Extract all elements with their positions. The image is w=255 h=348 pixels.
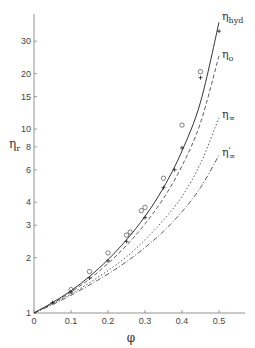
y-tick-label: 8	[26, 142, 31, 152]
circle-marker	[87, 269, 91, 273]
curves	[34, 22, 219, 313]
curve-label: η∞	[222, 108, 235, 123]
y-tick-label: 2	[26, 253, 31, 263]
curve-dotted	[34, 118, 219, 313]
circle-marker	[139, 208, 143, 212]
circle-marker	[128, 230, 132, 234]
cross-marker	[180, 146, 184, 150]
x-tick-label: 0.2	[102, 316, 115, 326]
x-tick-label: 0	[31, 316, 36, 326]
cross-marker	[199, 76, 203, 80]
chart: 00.10.20.30.40.512346810152030 ηhydηoη∞η…	[0, 0, 255, 348]
y-tick-label: 20	[21, 69, 31, 79]
x-tick-label: 0.4	[176, 316, 189, 326]
y-tick-label: 10	[21, 124, 31, 134]
x-axis-label: φ	[127, 331, 135, 345]
circle-marker	[106, 251, 110, 255]
circle-marker	[124, 233, 128, 237]
curve-dashed	[34, 56, 219, 313]
y-tick-label: 4	[26, 197, 31, 207]
circle-marker	[161, 176, 165, 180]
y-axis-label-sub: r	[16, 144, 20, 153]
y-tick-label: 6	[26, 165, 31, 175]
curve-label: ηo	[222, 48, 234, 63]
curve-dashdot	[34, 155, 219, 313]
cross-marker	[125, 239, 129, 243]
y-tick-label: 3	[26, 220, 31, 230]
cross-marker	[173, 168, 177, 172]
curve-label: η'∞	[222, 145, 235, 161]
curve-solid	[34, 22, 219, 313]
x-tick-label: 0.3	[139, 316, 152, 326]
x-tick-label: 0.1	[65, 316, 78, 326]
curve-labels: ηhydηoη∞η'∞	[222, 10, 243, 161]
cross-marker	[162, 186, 166, 190]
circle-marker	[198, 69, 202, 73]
circle-marker	[180, 123, 184, 127]
y-axis-label: ηr	[9, 137, 20, 153]
curve-label: ηhyd	[222, 10, 243, 25]
y-tick-label: 30	[21, 36, 31, 46]
y-axis-label-main: η	[9, 137, 16, 151]
cross-marker	[88, 276, 92, 280]
x-tick-label: 0.5	[213, 316, 226, 326]
axes: 00.10.20.30.40.512346810152030	[21, 14, 245, 326]
y-tick-label: 15	[21, 92, 31, 102]
y-tick-label: 1	[26, 308, 31, 318]
circle-marker	[143, 205, 147, 209]
data-markers	[51, 29, 222, 304]
